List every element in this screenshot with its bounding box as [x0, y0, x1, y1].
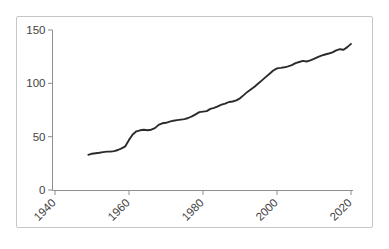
line-chart-svg: 05010015019401960198020002020	[0, 0, 389, 249]
chart-border	[17, 17, 373, 228]
y-tick-label: 100	[26, 77, 45, 89]
y-tick-label: 150	[26, 24, 45, 36]
y-tick-label: 50	[33, 131, 46, 143]
chart-figure: 05010015019401960198020002020	[0, 0, 389, 249]
y-tick-label: 0	[39, 184, 45, 196]
